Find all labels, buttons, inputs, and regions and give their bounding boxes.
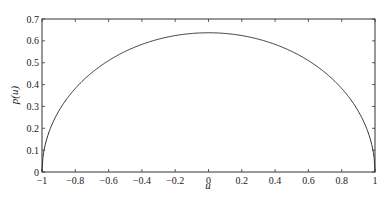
chart: −1−0.8−0.6−0.4−0.200.20.40.60.81 00.10.2… <box>0 0 390 200</box>
x-tick-label: 1 <box>373 175 378 186</box>
x-axis-label: u <box>205 179 211 191</box>
plot-frame <box>42 19 375 172</box>
x-tick-label: 0.2 <box>236 175 249 186</box>
y-tick-label: 0.7 <box>27 14 40 25</box>
y-tick-label: 0.1 <box>27 145 40 156</box>
x-tick-label: −0.2 <box>166 175 184 186</box>
data-curve <box>42 33 375 172</box>
y-axis-label: p(u) <box>8 86 21 106</box>
y-axis-ticks: 00.10.20.30.40.50.60.7 <box>27 14 376 178</box>
y-tick-label: 0.5 <box>27 57 40 68</box>
y-tick-label: 0.2 <box>27 123 40 134</box>
x-tick-label: 0.4 <box>269 175 282 186</box>
x-tick-label: 0.6 <box>302 175 315 186</box>
x-tick-label: 0.8 <box>335 175 348 186</box>
x-tick-label: −0.8 <box>66 175 84 186</box>
x-tick-label: −0.4 <box>133 175 151 186</box>
y-tick-label: 0.4 <box>27 79 40 90</box>
y-tick-label: 0 <box>34 167 39 178</box>
x-tick-label: −0.6 <box>100 175 118 186</box>
x-axis-ticks: −1−0.8−0.6−0.4−0.200.20.40.60.81 <box>37 19 378 186</box>
y-tick-label: 0.3 <box>27 101 40 112</box>
y-tick-label: 0.6 <box>27 35 40 46</box>
